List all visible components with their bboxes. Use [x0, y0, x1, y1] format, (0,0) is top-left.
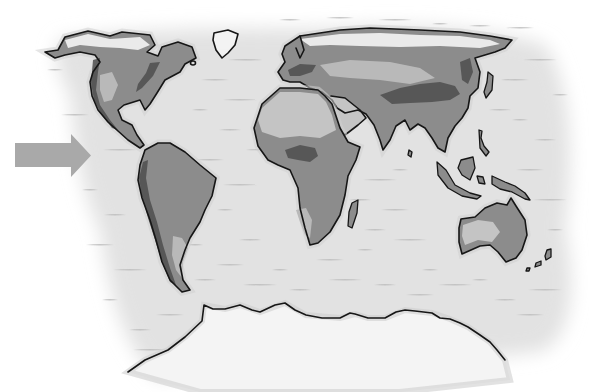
wave-mark	[432, 23, 448, 25]
map-canvas	[0, 0, 589, 392]
wave-mark	[378, 19, 412, 21]
wave-mark	[279, 19, 301, 21]
wave-mark	[326, 17, 354, 19]
wave-mark	[506, 27, 534, 29]
wave-mark	[469, 25, 491, 27]
new-zealand-tiny	[526, 268, 530, 271]
world-map-figure	[0, 0, 589, 392]
sri-lanka	[408, 150, 412, 157]
